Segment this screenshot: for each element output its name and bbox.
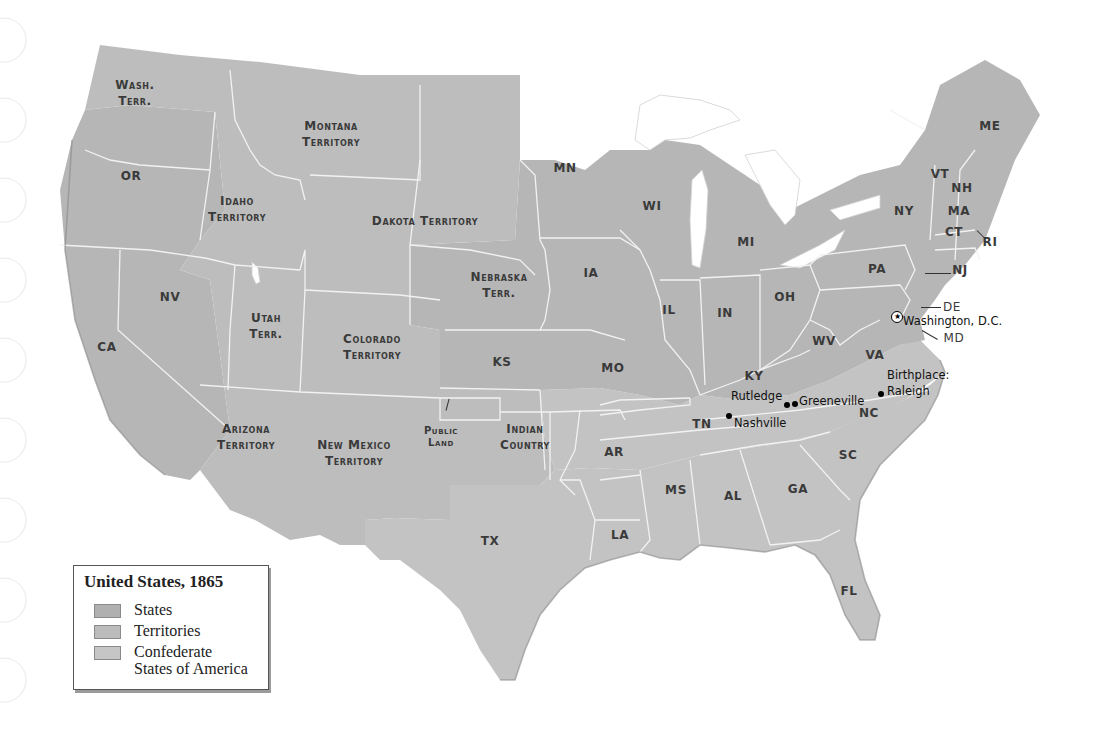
- label-ct: CT: [945, 224, 963, 240]
- label-ms: MS: [665, 482, 687, 498]
- city-dot-rutledge: [784, 402, 790, 408]
- region-west-states: [60, 105, 230, 480]
- label-ma: MA: [948, 203, 970, 219]
- label-tx: TX: [481, 533, 500, 549]
- label-nj: NJ: [952, 262, 968, 278]
- legend-label-territories: Territories: [134, 622, 200, 639]
- label-ks: KS: [492, 354, 511, 370]
- label-tn: TN: [692, 416, 711, 432]
- label-ky: KY: [744, 368, 763, 384]
- map-legend: United States, 1865 States Territories C…: [73, 565, 269, 690]
- label-ri: RI: [983, 234, 998, 250]
- legend-item-confederate: ConfederateStates of America: [94, 643, 248, 677]
- legend-swatch-territories: [94, 625, 121, 639]
- city-greeneville: Greeneville: [799, 394, 864, 408]
- label-ga: GA: [788, 481, 808, 497]
- label-arizona-territory: ArizonaTerritory: [217, 421, 275, 453]
- label-in: IN: [717, 305, 733, 321]
- label-vt: VT: [931, 166, 950, 182]
- capital-star-icon: ★: [891, 311, 903, 323]
- label-ar: AR: [604, 444, 624, 460]
- label-fl: FL: [840, 583, 857, 599]
- legend-label-confederate: ConfederateStates of America: [134, 643, 248, 677]
- label-mo: MO: [601, 360, 624, 376]
- label-dakota-territory: Dakota Territory: [372, 213, 478, 229]
- legend-item-territories: Territories: [94, 622, 200, 639]
- label-la: LA: [611, 527, 629, 543]
- label-nebraska-territory: NebraskaTerr.: [471, 269, 528, 301]
- label-nh: NH: [951, 180, 972, 196]
- lake-superior: [635, 95, 740, 150]
- label-new-mexico-territory: New MexicoTerritory: [317, 437, 391, 469]
- leader-de: [921, 307, 941, 308]
- label-il: IL: [662, 302, 675, 318]
- label-public-land: PublicLand: [424, 425, 458, 449]
- label-pa: PA: [868, 261, 886, 277]
- label-md: MD: [944, 330, 965, 346]
- legend-swatch-states: [94, 604, 121, 618]
- label-ia: IA: [584, 265, 599, 281]
- leader-nj: [925, 273, 951, 274]
- legend-item-states: States: [94, 601, 172, 618]
- label-washington-territory: Wash.Terr.: [115, 77, 154, 109]
- legend-label-states: States: [134, 601, 172, 618]
- label-montana-territory: MontanaTerritory: [302, 118, 360, 150]
- label-de: DE: [943, 299, 961, 315]
- label-va: VA: [866, 347, 885, 363]
- city-dot-greeneville: [792, 401, 798, 407]
- label-wv: WV: [812, 333, 836, 349]
- label-mi: MI: [737, 234, 755, 250]
- label-sc: SC: [839, 447, 858, 463]
- label-idaho-territory: IdahoTerritory: [208, 193, 266, 225]
- city-birthplace-label: Birthplace:: [887, 368, 949, 382]
- label-nv: NV: [160, 289, 181, 305]
- label-me: ME: [979, 118, 1000, 134]
- label-oh: OH: [774, 289, 795, 305]
- city-rutledge: Rutledge: [731, 389, 782, 403]
- label-ny: NY: [894, 203, 914, 219]
- legend-title: United States, 1865: [84, 572, 223, 592]
- label-wi: WI: [643, 198, 662, 214]
- label-ca: CA: [97, 339, 116, 355]
- city-washington-dc: Washington, D.C.: [903, 314, 1002, 328]
- label-indian-country: IndianCountry: [500, 421, 550, 453]
- legend-swatch-confederate: [94, 646, 121, 660]
- label-al: AL: [724, 488, 742, 504]
- label-mn: MN: [553, 160, 576, 176]
- label-utah-territory: UtahTerr.: [249, 310, 283, 342]
- city-nashville: Nashville: [734, 416, 786, 430]
- city-dot-raleigh: [878, 391, 884, 397]
- label-or: OR: [121, 168, 142, 184]
- city-raleigh: Raleigh: [887, 384, 930, 398]
- label-colorado-territory: ColoradoTerritory: [343, 331, 401, 363]
- city-dot-nashville: [726, 413, 732, 419]
